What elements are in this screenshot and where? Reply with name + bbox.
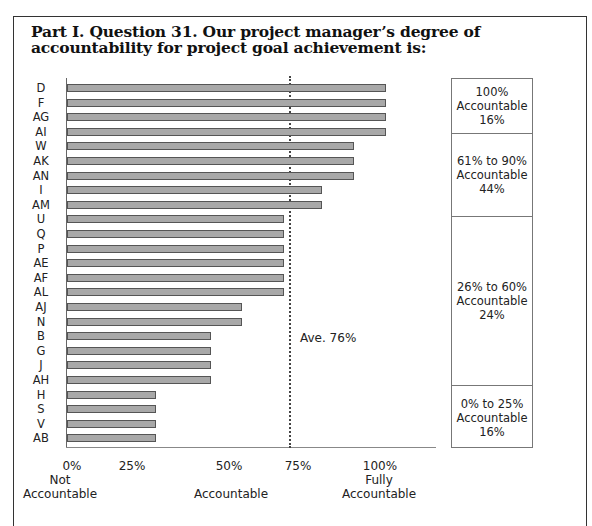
legend-group: 61% to 90%Accountable44% [452, 134, 532, 217]
category-label: AJ [20, 301, 62, 314]
x-axis-descriptor: Accountable [194, 473, 268, 501]
category-label: G [20, 345, 62, 358]
category-label: F [20, 97, 62, 110]
bar-p [67, 245, 284, 253]
category-label: AH [20, 374, 62, 387]
bar-g [67, 347, 211, 355]
bar-ab [67, 434, 156, 442]
legend-group: 0% to 25%Accountable16% [452, 386, 532, 449]
bar-am [67, 201, 322, 209]
legend-group: 100%Accountable16% [452, 79, 532, 134]
bar-b [67, 332, 211, 340]
category-label: D [20, 82, 62, 95]
bar-h [67, 391, 156, 399]
x-tick-label: 25% [119, 459, 146, 473]
category-label: AG [20, 111, 62, 124]
bar-n [67, 318, 242, 326]
bar-f [67, 99, 386, 107]
category-label: V [20, 418, 62, 431]
category-label: B [20, 330, 62, 343]
category-label: U [20, 213, 62, 226]
bar-ak [67, 157, 354, 165]
category-label: AL [20, 286, 62, 299]
category-label: AN [20, 170, 62, 183]
bar-ai [67, 128, 386, 136]
bar-q [67, 230, 284, 238]
category-label: S [20, 403, 62, 416]
bar-af [67, 274, 284, 282]
category-label: AF [20, 272, 62, 285]
category-label: AB [20, 432, 62, 445]
legend-group: 26% to 60%Accountable24% [452, 217, 532, 386]
bar-ag [67, 113, 386, 121]
bar-u [67, 215, 284, 223]
bar-w [67, 142, 354, 150]
category-label: W [20, 140, 62, 153]
category-label: AK [20, 155, 62, 168]
chart-title: Part I. Question 31. Our project manager… [31, 24, 571, 56]
x-tick-label: 100% [363, 459, 397, 473]
bar-al [67, 288, 284, 296]
category-label: I [20, 184, 62, 197]
category-label: AE [20, 257, 62, 270]
category-label: AI [20, 126, 62, 139]
category-label: N [20, 316, 62, 329]
x-axis-line [66, 447, 436, 448]
bar-ae [67, 259, 284, 267]
category-label: J [20, 359, 62, 372]
category-label: H [20, 389, 62, 402]
x-axis-descriptor: NotAccountable [23, 473, 97, 501]
x-tick-label: 0% [62, 459, 81, 473]
category-label: P [20, 243, 62, 256]
accountability-legend-box: 100%Accountable16%61% to 90%Accountable4… [451, 78, 533, 448]
bar-an [67, 172, 354, 180]
bar-v [67, 420, 156, 428]
category-label: AM [20, 199, 62, 212]
bar-s [67, 405, 156, 413]
bar-ah [67, 376, 211, 384]
category-label: Q [20, 228, 62, 241]
bar-d [67, 84, 386, 92]
average-label: Ave. 76% [300, 331, 356, 345]
x-tick-label: 50% [216, 459, 243, 473]
x-axis-descriptor: FullyAccountable [342, 473, 416, 501]
bar-j [67, 361, 211, 369]
x-tick-label: 75% [285, 459, 312, 473]
bar-aj [67, 303, 242, 311]
bar-i [67, 186, 322, 194]
